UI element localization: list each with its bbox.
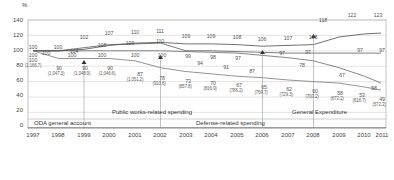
- datalabel-defense-2008: 87: [240, 68, 264, 74]
- band-label-public-works: Public works-related spending: [112, 109, 192, 115]
- x-tick-2011: 2011: [369, 132, 394, 138]
- x-tick-1997: 1997: [20, 132, 46, 138]
- x-tick-2000: 2000: [96, 132, 122, 138]
- datalabel-defense-2000: 100: [90, 52, 114, 58]
- datalabel-defense-2001: 100: [123, 52, 147, 58]
- chart-container: % 140 120 100 80 60 40 20 0: [0, 0, 394, 180]
- x-tick-2001: 2001: [122, 132, 148, 138]
- x-tick-2007: 2007: [275, 132, 301, 138]
- datalabel-defense-1999: 100: [60, 52, 84, 58]
- datalabel-general-2005: 108: [225, 34, 249, 40]
- datalabel-publicworks-2010: 97: [348, 47, 372, 53]
- x-tick-2002: 2002: [147, 132, 173, 138]
- datalabel-defense-2002: 100: [150, 52, 174, 58]
- x-tick-1999: 1999: [71, 132, 97, 138]
- datalabel-general-2011: 123: [366, 12, 390, 18]
- datalabel-general-2007: 107: [276, 35, 300, 41]
- x-tick-2006: 2006: [249, 132, 275, 138]
- datalabel-publicworks-2008: 97: [296, 49, 320, 55]
- datalabel-general-1999: 102: [72, 34, 96, 40]
- datalabel-publicworks-2001: 109: [118, 40, 142, 46]
- datalabel-defense-2009: 78: [290, 62, 314, 68]
- datalabel-general-2000: 107: [97, 30, 121, 36]
- datalabel-publicworks-2011: 97: [370, 47, 394, 53]
- x-tick-2009: 2009: [326, 132, 352, 138]
- datalabel-general-2006: 106: [250, 36, 274, 42]
- x-tick-2004: 2004: [198, 132, 224, 138]
- datalabel-defense-2003: 99: [176, 53, 200, 59]
- x-tick-2005: 2005: [224, 132, 250, 138]
- datalabel-publicworks-2000: 108: [90, 42, 114, 48]
- datalabel-general-2002: 111: [148, 28, 172, 34]
- datalabel-defense-2011: 58: [362, 85, 386, 91]
- marker-triangle-1999: [82, 60, 87, 64]
- datalabel-general-2004: 109: [199, 33, 223, 39]
- x-tick-2003: 2003: [173, 132, 199, 138]
- datalabel-defense-2006: 94: [188, 60, 212, 66]
- datalabel-publicworks-2002: 110: [148, 38, 172, 44]
- x-tick-2008: 2008: [300, 132, 326, 138]
- datalabel-general-2010: 122: [340, 12, 364, 18]
- datalabel-general-2008: 108: [301, 34, 325, 40]
- datalabel-general-2003: 109: [174, 33, 198, 39]
- datalabel-oda-amount-2000: (1,046.6): [92, 71, 122, 76]
- datalabel-general-2001: 110: [123, 29, 147, 35]
- datalabel-general-2009: 118: [311, 17, 335, 23]
- x-tick-1998: 1998: [45, 132, 71, 138]
- datalabel-defense-2007: 91: [214, 64, 238, 70]
- band-label-oda: ODA general account: [34, 120, 91, 126]
- datalabel-oda-amount-2011: (572.2): [364, 102, 394, 107]
- datalabel-defense-2005: 97: [226, 55, 250, 61]
- datalabel-oda-amount-1997: (1,166.7): [18, 63, 48, 68]
- band-label-general: General Expenditure: [292, 109, 347, 115]
- band-label-defense: Defense-related spending: [196, 120, 265, 126]
- datalabel-publicworks-2007: 97: [270, 50, 294, 56]
- datalabel-defense-2010: 67: [330, 72, 354, 78]
